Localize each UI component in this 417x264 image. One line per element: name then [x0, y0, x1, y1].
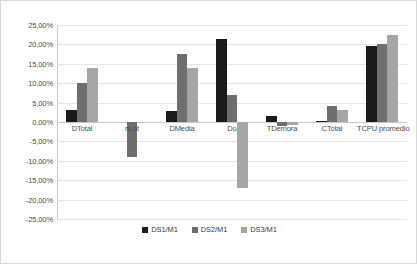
bar-group	[157, 25, 207, 219]
bar-DS1-M1-TCPU-promedio	[366, 46, 377, 122]
x-axis-label-CTotal: CTotal	[307, 124, 357, 133]
chart-legend: DS1/M1DS2/M1DS3/M1	[1, 225, 417, 234]
bar-DS1-M1-DTotal	[66, 110, 77, 122]
x-axis-category-labels: DTotalnLotDMediaDoTDemoraCTotalTCPU prom…	[57, 124, 407, 136]
y-axis-tick-label: -25,00%	[3, 215, 53, 224]
legend-item-DS3-M1[interactable]: DS3/M1	[241, 225, 277, 234]
y-axis-tick-label: -10,00%	[3, 156, 53, 165]
legend-item-DS2-M1[interactable]: DS2/M1	[192, 225, 228, 234]
legend-label: DS2/M1	[201, 225, 228, 234]
y-axis-tick-labels: 25,00%20,00%15,00%10,00%5,00%0,00%-5,00%…	[1, 25, 53, 219]
x-axis-label-Do: Do	[207, 124, 257, 133]
bar-DS1-M1-Do	[216, 39, 227, 122]
y-axis-tick-label: 5,00%	[3, 98, 53, 107]
x-axis-label-TCPU-promedio: TCPU promedio	[357, 124, 407, 133]
legend-item-DS1-M1[interactable]: DS1/M1	[142, 225, 178, 234]
y-axis-tick-label: -15,00%	[3, 176, 53, 185]
bar-DS3-M1-CTotal	[337, 110, 348, 122]
chart-container: 25,00%20,00%15,00%10,00%5,00%0,00%-5,00%…	[0, 0, 417, 264]
bar-DS1-M1-CTotal	[316, 121, 327, 122]
bar-DS2-M1-Do	[227, 95, 238, 122]
legend-label: DS3/M1	[250, 225, 277, 234]
y-axis-tick-label: 0,00%	[3, 118, 53, 127]
bar-group	[257, 25, 307, 219]
x-axis-label-DTotal: DTotal	[57, 124, 107, 133]
gridline	[57, 219, 407, 220]
y-axis-tick-label: -20,00%	[3, 195, 53, 204]
x-axis-label-nLot: nLot	[107, 124, 157, 133]
bar-group	[357, 25, 407, 219]
y-axis-tick-label: -5,00%	[3, 137, 53, 146]
legend-label: DS1/M1	[151, 225, 178, 234]
x-axis-label-DMedia: DMedia	[157, 124, 207, 133]
bar-DS3-M1-DTotal	[87, 68, 98, 122]
bar-group	[107, 25, 157, 219]
bar-group	[207, 25, 257, 219]
bar-group	[57, 25, 107, 219]
y-axis-tick-label: 15,00%	[3, 59, 53, 68]
plot-area	[57, 25, 407, 219]
bar-DS2-M1-CTotal	[327, 106, 338, 122]
legend-swatch-icon	[192, 227, 198, 233]
bar-DS1-M1-DMedia	[166, 111, 177, 122]
bar-DS3-M1-TCPU-promedio	[387, 35, 398, 122]
bar-DS2-M1-DTotal	[77, 83, 88, 122]
x-axis-label-TDemora: TDemora	[257, 124, 307, 133]
y-axis-tick-label: 10,00%	[3, 79, 53, 88]
y-axis-tick-label: 20,00%	[3, 40, 53, 49]
bar-DS2-M1-DMedia	[177, 54, 188, 122]
bar-DS2-M1-TCPU-promedio	[377, 44, 388, 122]
y-axis-tick-label: 25,00%	[3, 21, 53, 30]
bar-DS1-M1-TDemora	[266, 116, 277, 122]
legend-swatch-icon	[241, 227, 247, 233]
legend-swatch-icon	[142, 227, 148, 233]
bar-group	[307, 25, 357, 219]
bar-DS3-M1-DMedia	[187, 68, 198, 122]
bar-groups	[57, 25, 407, 219]
